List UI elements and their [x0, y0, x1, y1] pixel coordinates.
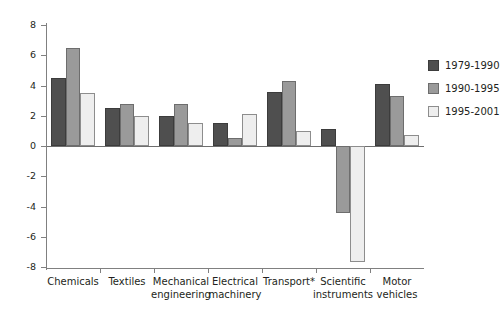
legend-item[interactable]: 1979-1990	[428, 56, 500, 74]
bar-0-0	[51, 78, 66, 146]
x-axis-tick	[262, 268, 263, 273]
y-tick-label: 6	[10, 50, 36, 60]
y-tick-label: -2	[10, 171, 36, 181]
bar-5-0	[321, 129, 336, 146]
bar-2-0	[159, 116, 174, 146]
x-axis-line	[46, 268, 424, 269]
bar-6-2	[404, 135, 419, 146]
bar-5-2	[350, 146, 365, 262]
legend-label: 1990-1995	[445, 83, 500, 94]
category-label: Motor vehicles	[362, 276, 432, 301]
y-tick-label: 0	[10, 141, 36, 151]
y-tick-label: -4	[10, 202, 36, 212]
bar-2-1	[174, 104, 189, 146]
bar-3-1	[228, 138, 243, 146]
bar-5-1	[336, 146, 351, 213]
bar-4-0	[267, 92, 282, 146]
bar-2-2	[188, 123, 203, 146]
y-tick-label: -6	[10, 232, 36, 242]
bar-6-1	[390, 96, 405, 146]
legend-swatch-icon	[428, 83, 439, 94]
bar-0-1	[66, 48, 81, 146]
legend-swatch-icon	[428, 60, 439, 71]
x-axis-tick	[370, 268, 371, 273]
bar-chart: 86420-2-4-6-8 ChemicalsTextilesMechanica…	[0, 0, 504, 310]
bar-4-2	[296, 131, 311, 146]
bar-1-0	[105, 108, 120, 146]
bar-6-0	[375, 84, 390, 146]
x-axis-tick	[154, 268, 155, 273]
x-axis-tick	[100, 268, 101, 273]
bar-3-2	[242, 114, 257, 146]
bar-0-2	[80, 93, 95, 146]
y-tick-label: 4	[10, 81, 36, 91]
legend-swatch-icon	[428, 106, 439, 117]
bar-4-1	[282, 81, 297, 146]
legend-label: 1995-2001	[445, 106, 500, 117]
bar-1-1	[120, 104, 135, 146]
legend-label: 1979-1990	[445, 60, 500, 71]
y-tick-label: 2	[10, 111, 36, 121]
bar-3-0	[213, 123, 228, 146]
legend: 1979-19901990-19951995-2001	[428, 56, 500, 125]
x-axis-tick	[208, 268, 209, 273]
bar-1-2	[134, 116, 149, 146]
legend-item[interactable]: 1990-1995	[428, 79, 500, 97]
y-tick-label: 8	[10, 20, 36, 30]
x-axis-tick	[316, 268, 317, 273]
legend-item[interactable]: 1995-2001	[428, 102, 500, 120]
y-tick-label: -8	[10, 262, 36, 272]
plot-area	[46, 25, 424, 268]
